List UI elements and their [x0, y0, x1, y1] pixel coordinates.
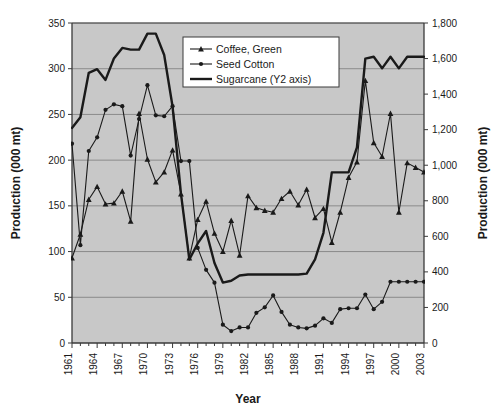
- data-point-marker: [305, 326, 309, 330]
- y2-axis-tick-label: 800: [432, 195, 449, 206]
- data-point-marker: [179, 159, 183, 163]
- chart-container: 050100150200250300350 02004006008001,000…: [0, 0, 503, 414]
- y2-axis-tick-label: 400: [432, 266, 449, 277]
- data-point-marker: [246, 325, 250, 329]
- data-point-marker: [271, 293, 275, 297]
- data-point-marker: [330, 321, 334, 325]
- production-line-chart: 050100150200250300350 02004006008001,000…: [0, 0, 503, 414]
- x-axis-tick-label: 1982: [239, 353, 250, 376]
- y2-axis-tick-label: 1,200: [432, 124, 457, 135]
- data-point-marker: [388, 280, 392, 284]
- data-point-marker: [254, 311, 258, 315]
- x-axis-tick-label: 1997: [365, 353, 376, 376]
- data-point-marker: [103, 108, 107, 112]
- x-axis-tick-label: 1994: [340, 353, 351, 376]
- data-point-marker: [279, 310, 283, 314]
- x-axis-tick-label: 1961: [63, 353, 74, 376]
- data-point-marker: [221, 323, 225, 327]
- data-point-marker: [338, 307, 342, 311]
- legend-item-label: Seed Cotton: [216, 58, 275, 70]
- legend-item-label: Coffee, Green: [216, 43, 282, 55]
- y-axis-tick-label: 50: [54, 292, 66, 303]
- data-point-marker: [204, 268, 208, 272]
- data-point-marker: [355, 306, 359, 310]
- y2-axis-tick-label: 1,800: [432, 18, 457, 29]
- data-point-marker: [372, 307, 376, 311]
- data-point-marker: [405, 280, 409, 284]
- y2-axis-tick-label: 600: [432, 231, 449, 242]
- y-axis-tick-label: 250: [48, 109, 65, 120]
- y-axis-tick-label: 350: [48, 18, 65, 29]
- y-axis-tick-label: 0: [59, 338, 65, 349]
- legend-item-label: Sugarcane (Y2 axis): [216, 73, 311, 85]
- data-point-marker: [145, 83, 149, 87]
- x-axis-tick-label: 1979: [214, 353, 225, 376]
- data-point-marker: [321, 316, 325, 320]
- data-point-marker: [78, 243, 82, 247]
- x-axis-title: Year: [235, 392, 261, 406]
- y-axis-tick-label: 300: [48, 63, 65, 74]
- x-axis-tick-label: 1991: [314, 353, 325, 376]
- y-axis-tick-label: 200: [48, 155, 65, 166]
- data-point-marker: [414, 280, 418, 284]
- data-point-marker: [296, 325, 300, 329]
- data-point-marker: [238, 325, 242, 329]
- data-point-marker: [137, 117, 141, 121]
- data-point-marker: [87, 149, 91, 153]
- data-point-marker: [187, 159, 191, 163]
- data-point-marker: [162, 114, 166, 118]
- chart-legend: Coffee, GreenSeed CottonSugarcane (Y2 ax…: [183, 37, 339, 87]
- data-point-marker: [346, 306, 350, 310]
- data-point-marker: [212, 281, 216, 285]
- x-axis-tick-label: 1976: [189, 353, 200, 376]
- data-point-marker: [112, 102, 116, 106]
- data-point-marker: [129, 153, 133, 157]
- x-axis-tick-label: 1988: [289, 353, 300, 376]
- legend-swatch-circle-icon: [199, 62, 203, 66]
- y-axis-tick-label: 100: [48, 246, 65, 257]
- y-axis-title: Production (000 mt): [9, 127, 23, 240]
- x-axis-tick-label: 1985: [264, 353, 275, 376]
- y-axis-tick-label: 150: [48, 200, 65, 211]
- x-axis-tick-label: 1970: [138, 353, 149, 376]
- data-point-marker: [313, 324, 317, 328]
- y2-axis-tick-label: 1,000: [432, 160, 457, 171]
- data-point-marker: [397, 280, 401, 284]
- data-point-marker: [263, 305, 267, 309]
- x-axis-tick-label: 1967: [113, 353, 124, 376]
- data-point-marker: [154, 113, 158, 117]
- x-axis-tick-label: 1973: [164, 353, 175, 376]
- data-point-marker: [288, 323, 292, 327]
- data-point-marker: [95, 135, 99, 139]
- data-point-marker: [380, 300, 384, 304]
- x-axis-tick-label: 2000: [390, 353, 401, 376]
- data-point-marker: [120, 104, 124, 108]
- data-point-marker: [229, 329, 233, 333]
- x-axis-tick-label: 2003: [415, 353, 426, 376]
- y2-axis-tick-label: 200: [432, 302, 449, 313]
- x-axis-tick-label: 1964: [88, 353, 99, 376]
- y2-axis-title: Production (000 mt): [476, 127, 490, 240]
- y2-axis-tick-label: 1,400: [432, 89, 457, 100]
- y2-axis-tick-label: 1,600: [432, 53, 457, 64]
- x-axis-tick-labels: 1961196419671970197319761979198219851988…: [63, 353, 426, 376]
- y2-axis-tick-label: 0: [432, 338, 438, 349]
- data-point-marker: [363, 292, 367, 296]
